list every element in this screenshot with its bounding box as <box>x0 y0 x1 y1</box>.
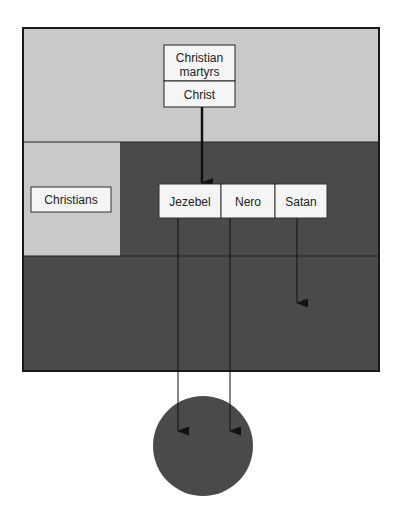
destination-circle[interactable] <box>153 396 253 496</box>
nero-label: Nero <box>235 195 261 209</box>
martyrs-label-line2: martyrs <box>180 65 220 79</box>
jezebel-label: Jezebel <box>169 195 210 209</box>
martyrs-label-line1: Christian <box>176 51 223 65</box>
christians-label: Christians <box>44 193 97 207</box>
antagonists-row: Jezebel Nero Satan <box>159 184 327 218</box>
satan-label: Satan <box>285 195 316 209</box>
christians-box[interactable]: Christians <box>31 187 111 212</box>
bottom-region <box>23 256 379 371</box>
christ-label: Christ <box>184 88 216 102</box>
top-box[interactable]: Christian martyrs Christ <box>164 45 235 107</box>
diagram-canvas: Christian martyrs Christ Christians Jeze… <box>0 0 399 522</box>
